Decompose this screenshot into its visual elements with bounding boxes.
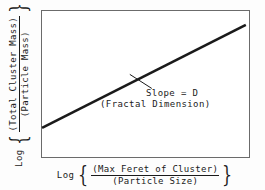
slope-annotation: Slope = D (Fractal Dimension) <box>127 88 262 110</box>
y-axis-label: Log { (Total Cluster Mass) (Particle Mas… <box>1 4 37 164</box>
x-axis-fraction: (Max Feret of Cluster) (Particle Size) <box>91 165 219 186</box>
x-axis-brace-close: } <box>222 166 232 185</box>
y-axis-log-word: Log <box>15 149 24 166</box>
fractal-dimension-log-log-chart: Log { (Total Cluster Mass) (Particle Mas… <box>0 0 265 190</box>
y-axis-brace-open: { <box>10 135 29 145</box>
plot-area-frame <box>41 10 250 158</box>
y-axis-log-expression: Log { (Total Cluster Mass) (Particle Mas… <box>9 1 30 167</box>
y-axis-fraction: (Total Cluster Mass) (Particle Mass) <box>9 16 30 132</box>
y-axis-denominator: (Particle Mass) <box>20 30 30 118</box>
x-axis-log-expression: Log { (Max Feret of Cluster) (Particle S… <box>57 165 234 186</box>
slope-annotation-primary: Slope = D <box>127 88 262 99</box>
slope-annotation-secondary: (Fractal Dimension) <box>100 99 262 110</box>
x-axis-denominator: (Particle Size) <box>111 176 199 186</box>
y-axis-numerator: (Total Cluster Mass) <box>9 16 20 132</box>
x-axis-brace-open: { <box>78 166 88 185</box>
x-axis-label: Log { (Max Feret of Cluster) (Particle S… <box>41 160 250 190</box>
y-axis-brace-close: } <box>10 3 29 13</box>
x-axis-log-word: Log <box>57 171 74 180</box>
x-axis-numerator: (Max Feret of Cluster) <box>91 165 219 176</box>
